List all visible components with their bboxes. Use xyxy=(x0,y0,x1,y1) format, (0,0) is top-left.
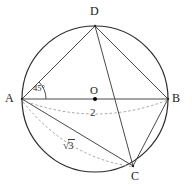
point-label-A: A xyxy=(5,92,14,104)
angle-label-45-degrees: 45° xyxy=(33,84,45,93)
sqrt-expression: √3 xyxy=(63,139,75,152)
measure-label-chord-AC: √3 xyxy=(63,139,75,152)
segment-DC xyxy=(95,26,133,166)
point-label-B: B xyxy=(172,92,180,104)
segment-AC xyxy=(22,99,133,166)
segment-DB xyxy=(95,26,168,99)
radical-sign-icon: √ xyxy=(63,140,69,151)
vertex-dot-B xyxy=(167,98,169,100)
vertex-dot-A xyxy=(21,98,23,100)
point-label-C: C xyxy=(131,170,139,182)
point-label-D: D xyxy=(90,5,99,17)
vertex-markers xyxy=(21,25,169,167)
measure-arc-AC xyxy=(23,102,134,167)
measure-label-chord-AB: 2 xyxy=(90,107,96,118)
center-label-O: O xyxy=(90,85,98,96)
center-dot-O xyxy=(93,97,97,101)
vertex-dot-C xyxy=(132,165,134,167)
geometry-figure: A B C D O 45° 2 √3 xyxy=(0,0,192,188)
vertex-dot-D xyxy=(94,25,96,27)
